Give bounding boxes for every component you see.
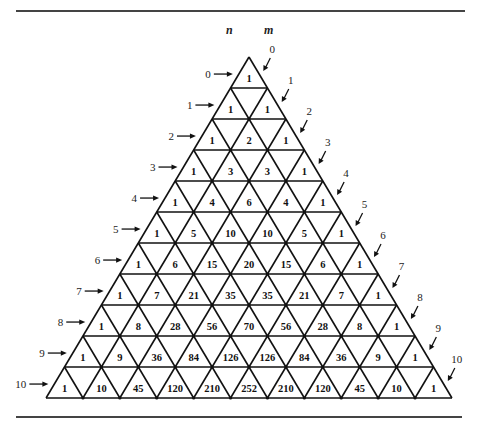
- vertex-dot: [284, 241, 287, 244]
- cell-value: 35: [262, 290, 273, 301]
- cell-value: 1: [376, 290, 381, 301]
- vertex-dot: [192, 396, 195, 399]
- pascal-triangle-diagram: n m 111121133114641151010511615201561172…: [0, 0, 480, 425]
- cell-value: 120: [167, 383, 183, 394]
- vertex-dot: [192, 334, 195, 337]
- diagonal-label-m: 6: [374, 229, 386, 257]
- vertex-dot: [266, 334, 269, 337]
- diagonal-label-text: 1: [288, 74, 294, 86]
- cell-value: 45: [354, 383, 365, 394]
- row-label-n: 1: [187, 99, 215, 111]
- arrow-head-icon: [42, 381, 48, 386]
- arrow-head-icon: [172, 164, 178, 169]
- cell-value: 21: [188, 290, 199, 301]
- cell-value: 210: [204, 383, 220, 394]
- row-label-n: 2: [168, 130, 196, 142]
- vertex-dot: [321, 365, 324, 368]
- cell-value: 1: [320, 197, 325, 208]
- row-label-text: 6: [95, 254, 101, 266]
- arrow-head-icon: [153, 195, 159, 200]
- vertex-dot: [413, 396, 416, 399]
- cell-value: 45: [133, 383, 144, 394]
- cell-value: 252: [241, 383, 257, 394]
- cell-value: 56: [281, 321, 292, 332]
- vertex-dot: [247, 117, 250, 120]
- vertex-dot: [377, 396, 380, 399]
- row-label-n: 7: [76, 285, 104, 297]
- diagonal-label-m: 9: [429, 322, 441, 350]
- cell-value: 8: [136, 321, 141, 332]
- cell-value: 15: [207, 259, 218, 270]
- vertex-dot: [174, 365, 177, 368]
- vertex-dot: [229, 148, 232, 151]
- cell-value: 3: [228, 166, 233, 177]
- cell-value: 1: [191, 166, 196, 177]
- cell-value: 36: [152, 352, 163, 363]
- row-label-text: 7: [76, 285, 82, 297]
- left-edge: [46, 57, 249, 398]
- row-label-text: 3: [150, 161, 156, 173]
- vertex-dot: [211, 303, 214, 306]
- triangle-grid: [46, 57, 452, 400]
- diagonal-label-m: 2: [300, 105, 312, 133]
- arrow-head-icon: [190, 133, 196, 138]
- cell-value: 1: [339, 228, 344, 239]
- cell-value: 3: [265, 166, 270, 177]
- cell-value: 9: [117, 352, 122, 363]
- row-label-text: 9: [39, 347, 45, 359]
- n-axis-header: n: [226, 23, 233, 37]
- cell-value: 1: [431, 383, 436, 394]
- cell-value: 1: [173, 197, 178, 208]
- row-label-n: 9: [39, 347, 66, 359]
- cell-value: 4: [283, 197, 289, 208]
- vertex-dot: [284, 365, 287, 368]
- vertex-dot: [303, 334, 306, 337]
- cell-value: 15: [281, 259, 292, 270]
- arrow-head-icon: [227, 71, 233, 76]
- cell-value: 1: [154, 228, 159, 239]
- diagonal-label-text: 8: [417, 291, 423, 303]
- cell-value: 70: [244, 321, 255, 332]
- diagonal-label-text: 4: [343, 167, 349, 179]
- diagonal-label-m: 7: [392, 260, 404, 288]
- vertex-dot: [174, 303, 177, 306]
- cell-value: 126: [223, 352, 239, 363]
- vertex-dot: [284, 303, 287, 306]
- cell-value: 8: [357, 321, 362, 332]
- cell-value: 5: [191, 228, 196, 239]
- vertex-dot: [247, 179, 250, 182]
- diagonal-label-text: 5: [362, 198, 368, 210]
- cell-value: 84: [299, 352, 310, 363]
- vertex-dot: [211, 241, 214, 244]
- cell-value: 6: [173, 259, 178, 270]
- diagonal-label-text: 10: [451, 353, 463, 365]
- vertex-dot: [247, 241, 250, 244]
- vertex-dot: [229, 272, 232, 275]
- row-label-n: 10: [15, 378, 48, 390]
- cell-value: 28: [170, 321, 181, 332]
- cell-value: 126: [260, 352, 276, 363]
- vertex-dot: [118, 396, 121, 399]
- diagonal-label-text: 6: [380, 229, 386, 241]
- cell-value: 1: [228, 104, 233, 115]
- vertex-dot: [229, 334, 232, 337]
- diagonal-label-m: 5: [356, 198, 368, 226]
- cell-value: 84: [188, 352, 199, 363]
- cell-value: 1: [302, 166, 307, 177]
- right-edge: [249, 57, 452, 398]
- cell-value: 1: [136, 259, 141, 270]
- cell-value: 35: [225, 290, 236, 301]
- cell-value: 9: [376, 352, 381, 363]
- cell-value: 36: [336, 352, 347, 363]
- cell-value: 1: [209, 135, 214, 146]
- diagonal-label-text: 7: [399, 260, 405, 272]
- row-label-n: 6: [95, 254, 123, 266]
- diagonal-label-m: 0: [263, 43, 275, 71]
- vertex-dot: [229, 210, 232, 213]
- vertex-dot: [358, 365, 361, 368]
- cell-value: 4: [209, 197, 215, 208]
- cell-value: 7: [339, 290, 344, 301]
- row-label-n: 4: [132, 192, 160, 204]
- row-label-n: 3: [150, 161, 178, 173]
- cell-value: 1: [394, 321, 399, 332]
